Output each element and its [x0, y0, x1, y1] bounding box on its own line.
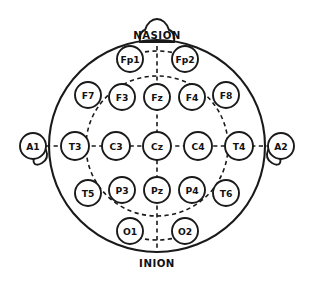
electrode-T6[interactable]: T6	[213, 180, 239, 206]
electrode-F3-label: F3	[116, 92, 128, 103]
electrode-C4[interactable]: C4	[184, 132, 212, 160]
eeg-head-map-svg: A1 A2 Fp1 Fp2 F7 F3 Fz	[0, 0, 314, 284]
electrode-F4-label: F4	[186, 92, 198, 103]
electrode-Fz-label: Fz	[151, 92, 162, 103]
electrode-Pz[interactable]: Pz	[144, 177, 170, 203]
electrode-A2-label: A2	[274, 141, 288, 152]
electrode-A1-label: A1	[26, 141, 40, 152]
electrode-F4[interactable]: F4	[179, 84, 205, 110]
inion-label: INION	[139, 258, 175, 269]
electrode-O1-label: O1	[123, 226, 137, 237]
electrode-Fp1-label: Fp1	[121, 54, 140, 65]
electrode-Fp1[interactable]: Fp1	[117, 46, 143, 72]
electrode-O1[interactable]: O1	[117, 218, 143, 244]
electrode-O2[interactable]: O2	[172, 218, 198, 244]
electrode-T3-label: T3	[69, 141, 81, 152]
electrode-O2-label: O2	[178, 226, 192, 237]
eeg-electrode-diagram: A1 A2 Fp1 Fp2 F7 F3 Fz	[0, 0, 314, 284]
electrode-P3[interactable]: P3	[109, 177, 135, 203]
electrode-P3-label: P3	[116, 185, 129, 196]
electrode-C3[interactable]: C3	[102, 132, 130, 160]
electrode-F8[interactable]: F8	[213, 82, 239, 108]
electrode-F3[interactable]: F3	[109, 84, 135, 110]
electrode-T6-label: T6	[220, 188, 232, 199]
electrode-P4-label: P4	[186, 185, 199, 196]
electrode-F8-label: F8	[220, 90, 232, 101]
electrode-Fp2-label: Fp2	[176, 54, 195, 65]
electrode-Cz-label: Cz	[151, 141, 163, 152]
electrode-Pz-label: Pz	[151, 185, 163, 196]
electrode-A2[interactable]: A2	[268, 133, 294, 159]
electrode-F7-label: F7	[82, 90, 94, 101]
nasion-label: NASION	[133, 30, 181, 41]
electrode-P4[interactable]: P4	[179, 177, 205, 203]
electrode-F7[interactable]: F7	[75, 82, 101, 108]
electrode-T4-label: T4	[233, 141, 245, 152]
electrode-T5[interactable]: T5	[75, 180, 101, 206]
electrode-T3[interactable]: T3	[61, 132, 89, 160]
electrode-A1[interactable]: A1	[20, 133, 46, 159]
electrode-Fz[interactable]: Fz	[144, 84, 170, 110]
electrode-Cz[interactable]: Cz	[143, 132, 171, 160]
electrode-C3-label: C3	[110, 141, 123, 152]
electrode-Fp2[interactable]: Fp2	[172, 46, 198, 72]
electrode-T5-label: T5	[82, 188, 94, 199]
electrode-C4-label: C4	[192, 141, 205, 152]
electrode-T4[interactable]: T4	[225, 132, 253, 160]
